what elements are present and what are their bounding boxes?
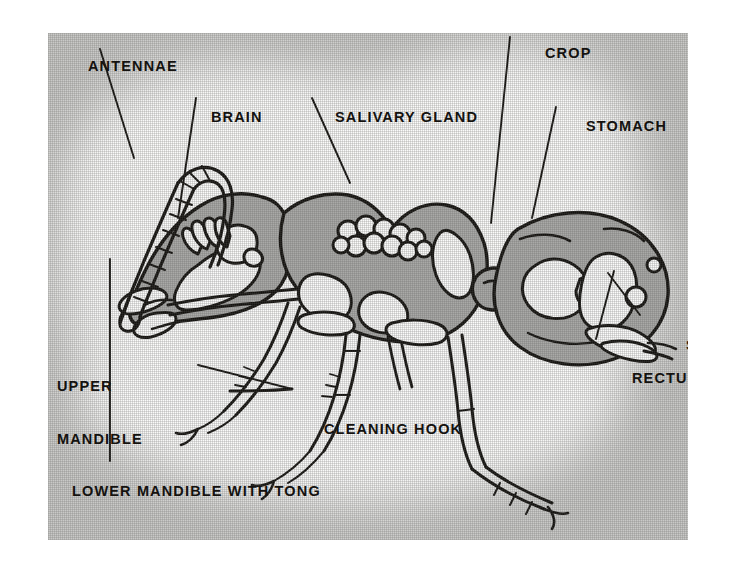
label-cleaning-hook: CLEANING HOOK [324,421,462,439]
leader-brain [178,98,196,218]
label-antennae: ANTENNAE [88,58,178,76]
label-salivary-gland: SALIVARY GLAND [335,109,478,127]
rectum-organ [626,287,646,307]
label-rectum: RECTUM [632,370,688,388]
label-sting: STING [686,337,688,355]
label-lower-mandible: LOWER MANDIBLE WITH TONG [72,483,321,501]
label-upper-mandible: UPPER MANDIBLE [57,343,143,485]
label-upper-mandible-line2: MANDIBLE [57,431,143,449]
label-upper-mandible-line1: UPPER [57,378,143,396]
leader-stomach [532,107,556,218]
leader-crop [491,37,510,223]
label-crop: CROP [545,45,592,63]
screenshot-root: .ink { fill:none; stroke:#14120f; stroke… [0,0,730,574]
label-brain: BRAIN [211,109,263,127]
illustration-plate: .ink { fill:none; stroke:#14120f; stroke… [48,33,688,540]
label-stomach: STOMACH [586,118,667,136]
gaster [494,213,676,365]
